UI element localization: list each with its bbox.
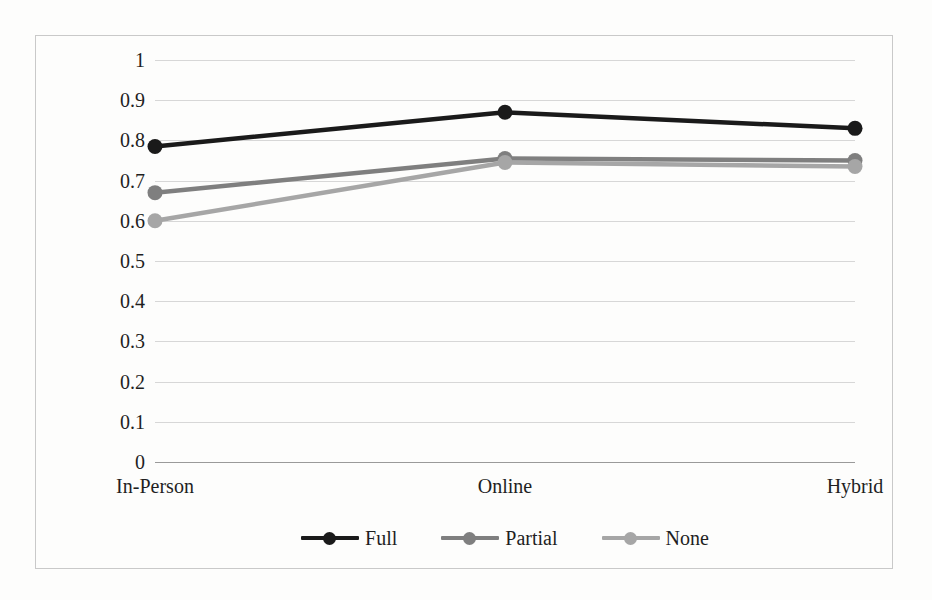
y-tick-label: 0.8: [53, 130, 145, 150]
x-tick-label: Hybrid: [827, 474, 884, 498]
line-chart-figure: 1 0.9 0.8 0.7 0.6 0.5 0.4 0.3 0.2 0.1 0 …: [0, 0, 932, 600]
legend-marker-icon: [441, 530, 499, 546]
data-point-marker: [498, 105, 513, 120]
legend-item-none[interactable]: None: [602, 528, 709, 548]
legend-marker-icon: [301, 530, 359, 546]
x-tick-label: In-Person: [116, 474, 194, 498]
data-point-marker: [848, 159, 863, 174]
legend-item-partial[interactable]: Partial: [441, 528, 557, 548]
data-point-marker: [498, 155, 513, 170]
plot-area: [155, 60, 855, 462]
series-plot: [155, 60, 855, 462]
y-tick-label: 0: [53, 452, 145, 472]
y-tick-label: 0.6: [53, 211, 145, 231]
y-tick-label: 0.3: [53, 331, 145, 351]
series-line-none: [155, 163, 855, 221]
data-point-marker: [148, 139, 163, 154]
legend-label: Full: [365, 528, 397, 548]
data-point-marker: [148, 185, 163, 200]
chart-legend: Full Partial None: [155, 522, 855, 554]
y-tick-label: 1: [53, 50, 145, 70]
x-tick-label: Online: [478, 474, 532, 498]
y-tick-label: 0.4: [53, 291, 145, 311]
data-point-marker: [148, 213, 163, 228]
y-tick-label: 0.5: [53, 251, 145, 271]
y-tick-label: 0.1: [53, 412, 145, 432]
y-axis-tick-labels: 1 0.9 0.8 0.7 0.6 0.5 0.4 0.3 0.2 0.1 0: [45, 60, 145, 462]
y-tick-label: 0.2: [53, 372, 145, 392]
legend-item-full[interactable]: Full: [301, 528, 397, 548]
y-tick-label: 0.7: [53, 171, 145, 191]
legend-marker-icon: [602, 530, 660, 546]
x-axis-line: [155, 462, 855, 463]
y-tick-label: 0.9: [53, 90, 145, 110]
data-point-marker: [848, 121, 863, 136]
legend-label: None: [666, 528, 709, 548]
legend-label: Partial: [505, 528, 557, 548]
x-axis-tick-labels: In-Person Online Hybrid: [155, 474, 855, 504]
